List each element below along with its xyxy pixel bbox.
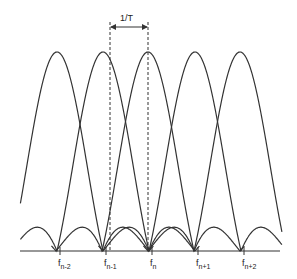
arrowhead-icon xyxy=(110,24,116,30)
pulse-curve xyxy=(143,52,282,251)
sinc-pulses xyxy=(20,52,282,251)
period-label: 1/T xyxy=(120,13,133,23)
frequency-comb-diagram xyxy=(0,0,297,279)
frequency-label: fn xyxy=(150,258,156,270)
frequency-label: fn-1 xyxy=(104,258,117,270)
frequency-label: fn+1 xyxy=(196,258,210,270)
frequency-label: fn-2 xyxy=(58,258,71,270)
pulse-curve xyxy=(51,52,244,251)
pulse-curve xyxy=(20,52,199,251)
arrowhead-icon xyxy=(142,24,148,30)
annotations xyxy=(20,22,280,255)
frequency-label: fn+2 xyxy=(242,258,256,270)
